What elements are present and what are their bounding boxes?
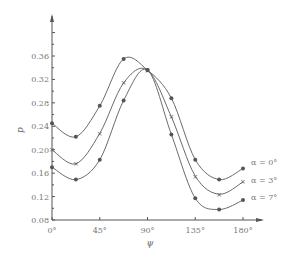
- data-point: [50, 165, 54, 169]
- data-point: [217, 207, 221, 211]
- data-point: [98, 158, 102, 162]
- data-point: [122, 99, 126, 103]
- x-tick-label: 135°: [186, 226, 205, 235]
- x-axis-title: ψ: [146, 238, 154, 248]
- data-point: [193, 158, 197, 162]
- x-tick-label: 0°: [47, 226, 56, 235]
- data-point: [98, 104, 102, 108]
- x-tick-label: 90°: [140, 226, 154, 235]
- data-point-cross: ×: [240, 178, 246, 186]
- legend-label: α = 7°: [251, 193, 277, 202]
- y-tick-label: 0.32: [31, 75, 49, 84]
- series-line: [52, 69, 243, 209]
- data-point: [74, 135, 78, 139]
- axes: [50, 14, 264, 222]
- data-point: [122, 57, 126, 61]
- legend-label: α = 3°: [251, 176, 277, 185]
- curves: [52, 57, 243, 209]
- x-tick-label: 45°: [93, 226, 107, 235]
- y-axis-title: p: [15, 127, 25, 133]
- data-point-cross: ×: [121, 79, 127, 87]
- y-tick-label: 0.16: [31, 169, 49, 178]
- x-axis-arrow-icon: [256, 218, 264, 222]
- y-tick-label: 0.12: [31, 193, 49, 202]
- data-point: [241, 166, 245, 170]
- data-point: [169, 132, 173, 136]
- y-tick-label: 0.20: [31, 146, 49, 155]
- data-point: [217, 178, 221, 182]
- markers: ×××××××××: [49, 57, 246, 212]
- y-tick-label: 0.24: [31, 122, 49, 131]
- legend-label: α = 0°: [251, 158, 277, 167]
- data-point: [74, 178, 78, 182]
- data-point-cross: ×: [97, 130, 103, 138]
- series-line: [52, 68, 243, 194]
- y-tick-label: 0.28: [31, 99, 49, 108]
- data-point-cross: ×: [168, 113, 174, 121]
- data-point-cross: ×: [192, 173, 198, 181]
- y-axis-arrow-icon: [50, 14, 54, 22]
- y-tick-label: 0.08: [31, 216, 49, 225]
- y-tick-label: 0.36: [31, 52, 49, 61]
- data-point: [169, 96, 173, 100]
- data-point: [193, 196, 197, 200]
- line-chart: ××××××××× 0.080.120.160.200.240.280.320.…: [0, 0, 289, 264]
- data-point: [241, 198, 245, 202]
- data-point-cross: ×: [216, 191, 222, 199]
- data-point: [50, 121, 54, 125]
- x-tick-label: 180°: [233, 226, 252, 235]
- data-point: [146, 68, 150, 72]
- data-point-cross: ×: [49, 146, 55, 154]
- data-point-cross: ×: [73, 160, 79, 168]
